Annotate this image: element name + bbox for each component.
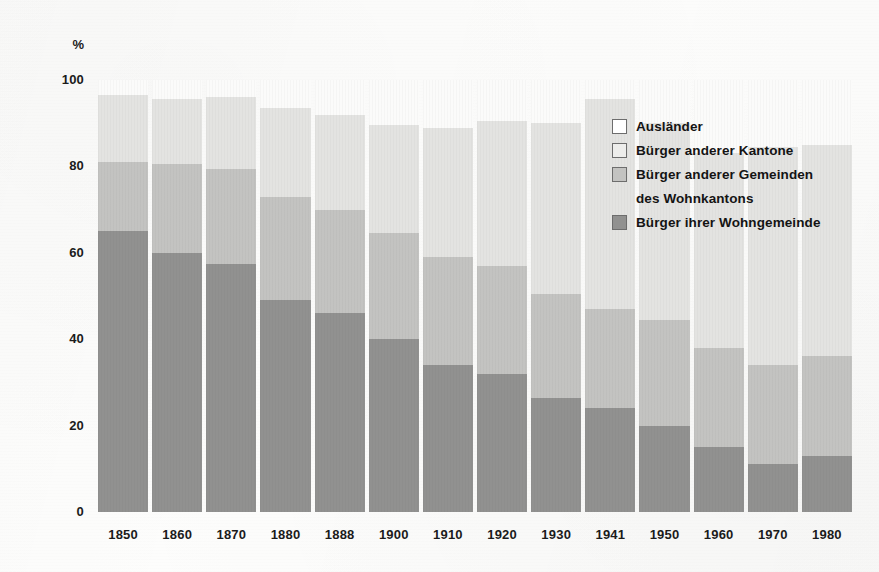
bar-segment-auslaender-1941 [585,80,635,99]
bar-segment-gemeinden-1880 [260,197,310,301]
legend-swatch-auslaender [612,119,627,134]
y-axis-unit-label: % [0,37,84,52]
bar-segment-wohn-1930 [531,398,581,512]
legend-label-0: Ausländer [636,117,703,136]
bar-segment-kantone-1930 [531,123,581,294]
bar-segment-gemeinden-1980 [802,356,852,455]
legend-label-4: Bürger ihrer Wohngemeinde [636,213,821,232]
legend-swatch-gemeinden [612,167,627,182]
bar-segment-gemeinden-1950 [639,320,689,426]
bar-1930 [531,80,581,512]
x-tick-label-1941: 1941 [583,527,637,542]
y-tick-label-40: 40 [69,331,84,346]
bar-segment-wohn-1950 [639,426,689,512]
bar-segment-wohn-1900 [369,339,419,512]
legend-row-2: Bürger anderer Gemeinden [612,165,864,186]
bar-1860 [152,80,202,512]
bar-segment-wohn-1941 [585,408,635,512]
y-tick-label-0: 0 [77,504,84,519]
x-tick-label-1900: 1900 [367,527,421,542]
bar-1870 [206,80,256,512]
bar-segment-gemeinden-1860 [152,164,202,253]
y-tick-label-100: 100 [62,72,84,87]
legend-label-1: Bürger anderer Kantone [636,141,793,160]
x-tick-label-1960: 1960 [692,527,746,542]
legend-swatch-kantone [612,143,627,158]
bar-segment-gemeinden-1920 [477,266,527,374]
y-tick-label-20: 20 [69,418,84,433]
bar-segment-wohn-1850 [98,231,148,512]
bar-segment-auslaender-1888 [315,80,365,115]
x-tick-label-1860: 1860 [150,527,204,542]
bar-segment-wohn-1960 [694,447,744,512]
y-axis: % 100 80 60 40 20 0 [0,0,84,572]
legend-row-0: Ausländer [612,117,864,138]
bar-segment-kantone-1870 [206,97,256,168]
bar-segment-gemeinden-1850 [98,162,148,231]
bar-segment-wohn-1970 [748,464,798,512]
bar-1920 [477,80,527,512]
bar-segment-wohn-1860 [152,253,202,512]
bar-segment-auslaender-1870 [206,80,256,97]
y-tick-label-80: 80 [69,158,84,173]
bar-segment-auslaender-1900 [369,80,419,125]
x-tick-label-1950: 1950 [637,527,691,542]
x-tick-label-1980: 1980 [800,527,854,542]
x-tick-label-1850: 1850 [96,527,150,542]
x-tick-label-1970: 1970 [746,527,800,542]
legend-label-2: Bürger anderer Gemeinden [636,165,813,184]
x-tick-label-1910: 1910 [421,527,475,542]
legend-swatch-spacer [612,191,627,206]
bar-1880 [260,80,310,512]
x-tick-label-1920: 1920 [475,527,529,542]
bar-segment-auslaender-1850 [98,80,148,95]
bar-segment-wohn-1870 [206,264,256,512]
bar-segment-auslaender-1910 [423,80,473,128]
bar-segment-kantone-1850 [98,95,148,162]
x-tick-label-1880: 1880 [258,527,312,542]
bar-segment-gemeinden-1930 [531,294,581,398]
bar-segment-wohn-1980 [802,456,852,512]
bar-segment-kantone-1920 [477,121,527,266]
y-tick-label-60: 60 [69,245,84,260]
x-tick-label-1870: 1870 [204,527,258,542]
bar-segment-kantone-1860 [152,99,202,164]
bar-segment-auslaender-1920 [477,80,527,121]
legend-swatch-wohn [612,215,627,230]
bar-segment-kantone-1888 [315,115,365,210]
legend-row-1: Bürger anderer Kantone [612,141,864,162]
bar-1910 [423,80,473,512]
bar-segment-auslaender-1930 [531,80,581,123]
bar-segment-wohn-1910 [423,365,473,512]
bar-segment-wohn-1920 [477,374,527,512]
x-tick-label-1930: 1930 [529,527,583,542]
bar-1850 [98,80,148,512]
bar-segment-auslaender-1880 [260,80,310,108]
bar-segment-gemeinden-1900 [369,233,419,339]
bar-1888 [315,80,365,512]
chart-legend: AusländerBürger anderer KantoneBürger an… [612,117,864,237]
bar-segment-gemeinden-1910 [423,257,473,365]
bar-segment-kantone-1900 [369,125,419,233]
bar-segment-gemeinden-1888 [315,210,365,314]
bar-segment-wohn-1888 [315,313,365,512]
bar-segment-gemeinden-1941 [585,309,635,408]
legend-label-3: des Wohnkantons [636,189,754,208]
legend-row-3: des Wohnkantons [612,189,864,210]
bar-segment-wohn-1880 [260,300,310,512]
bar-1900 [369,80,419,512]
bar-segment-kantone-1910 [423,128,473,258]
x-tick-label-1888: 1888 [313,527,367,542]
bar-segment-kantone-1880 [260,108,310,197]
bar-segment-gemeinden-1970 [748,365,798,464]
bar-segment-gemeinden-1960 [694,348,744,447]
chart-page: % 100 80 60 40 20 0 18501860187018801888… [0,0,879,572]
legend-row-4: Bürger ihrer Wohngemeinde [612,213,864,234]
bar-segment-gemeinden-1870 [206,169,256,264]
bar-segment-auslaender-1860 [152,80,202,99]
